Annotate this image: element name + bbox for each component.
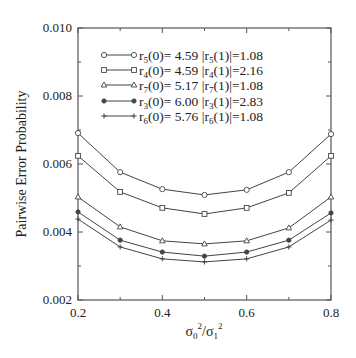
series-7	[75, 194, 334, 246]
circle-marker	[202, 192, 207, 197]
series-3	[76, 210, 333, 258]
circle-marker	[160, 187, 165, 192]
square-marker	[102, 68, 107, 73]
circle-marker	[101, 52, 106, 57]
filled-circle-marker	[329, 211, 333, 215]
filled-circle-marker	[287, 238, 291, 242]
square-marker	[76, 153, 81, 158]
square-marker	[202, 212, 207, 217]
x-axis-label: σ02/σ12	[186, 321, 223, 341]
series-line	[78, 133, 331, 195]
y-tick-label: 0.002	[43, 292, 72, 307]
circle-marker	[328, 131, 333, 136]
triangle-marker	[328, 194, 334, 199]
legend-label: r7(0)= 5.17 |r7(1)|=1.08	[139, 78, 263, 95]
square-marker	[286, 191, 291, 196]
square-marker	[160, 205, 165, 210]
x-tick-label: 0.2	[70, 305, 86, 320]
square-marker	[132, 68, 137, 73]
filled-circle-marker	[118, 238, 122, 242]
y-tick-label: 0.004	[43, 224, 73, 239]
circle-marker	[286, 170, 291, 175]
y-tick-label: 0.006	[43, 156, 73, 171]
triangle-marker	[75, 194, 81, 199]
x-axis-title: σ02/σ12	[186, 321, 223, 341]
series-4	[76, 153, 334, 216]
x-tick-label: 0.4	[154, 305, 171, 320]
data-series	[75, 130, 334, 264]
circle-marker	[131, 52, 136, 57]
triangle-marker	[117, 224, 123, 229]
triangle-marker	[286, 225, 292, 230]
legend-label: r6(0)= 5.76 |r6(1)|=1.08	[139, 109, 263, 126]
square-marker	[329, 153, 334, 158]
y-tick-label: 0.010	[43, 20, 72, 35]
circle-marker	[244, 187, 249, 192]
series-line	[78, 156, 331, 214]
filled-circle-marker	[245, 250, 249, 254]
square-marker	[244, 205, 249, 210]
filled-circle-marker	[76, 210, 80, 214]
legend-item: r7(0)= 5.17 |r7(1)|=1.08	[101, 78, 263, 95]
series-line	[78, 212, 331, 256]
y-tick-label: 0.008	[43, 88, 72, 103]
x-tick-label: 0.8	[323, 305, 339, 320]
filled-circle-marker	[160, 250, 164, 254]
filled-circle-marker	[202, 254, 206, 258]
filled-circle-marker	[102, 99, 106, 103]
legend-item: r6(0)= 5.76 |r6(1)|=1.08	[101, 109, 263, 126]
filled-circle-marker	[132, 99, 136, 103]
square-marker	[118, 189, 123, 194]
y-axis-title: Pairwise Error Probability	[14, 91, 29, 238]
y-axis-label: Pairwise Error Probability	[14, 91, 29, 238]
legend: r5(0)= 4.59 |r5(1)|=1.08r4(0)= 4.59 |r4(…	[101, 48, 263, 126]
chart: 0.0020.0040.0060.0080.0100.20.40.60.8 r5…	[0, 0, 356, 358]
x-tick-label: 0.6	[239, 305, 256, 320]
circle-marker	[118, 170, 123, 175]
circle-marker	[75, 130, 80, 135]
